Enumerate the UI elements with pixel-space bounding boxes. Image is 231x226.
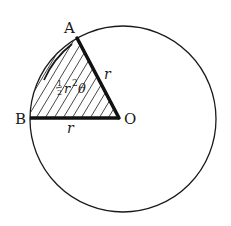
area-angle: θ: [78, 81, 86, 96]
hatch-line: [41, 25, 101, 125]
hatch-line: [5, 25, 65, 125]
point-a-label: A: [63, 19, 75, 37]
radius-oa: [77, 38, 119, 118]
radius-oa-label: r: [104, 66, 112, 82]
area-variable: r: [64, 81, 71, 96]
hatch-line: [113, 25, 173, 125]
radius-ob-label: r: [67, 120, 75, 136]
fraction-denominator: 2: [57, 88, 62, 97]
arc-ab: [44, 44, 72, 80]
hatch-line: [140, 25, 200, 125]
hatch-line: [149, 25, 209, 125]
point-b-label: B: [15, 110, 26, 128]
area-exponent: 2: [72, 78, 78, 88]
sector-diagram: A B O r r 1 2 r 2 θ: [0, 0, 231, 226]
hatch-line: [0, 25, 56, 125]
hatch-line: [158, 25, 218, 125]
hatch-line: [23, 25, 83, 125]
point-o-label: O: [124, 110, 136, 128]
hatch-line: [131, 25, 191, 125]
fraction-numerator: 1: [57, 79, 62, 88]
